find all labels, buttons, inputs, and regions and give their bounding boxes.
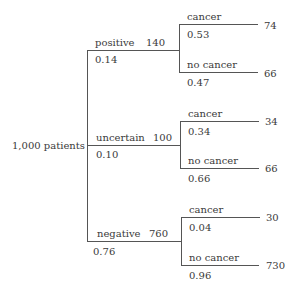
positive-nocancer-prob: 0.47 [187,77,209,88]
negative-count: 760 [149,228,168,239]
uncertain-prob: 0.10 [96,149,118,160]
negative-nocancer-label: no cancer [189,252,239,263]
positive-label: positive [95,37,135,48]
uncertain-count: 100 [153,132,172,143]
positive-nocancer-line [179,72,258,73]
uncertain-nocancer-label: no cancer [188,155,238,166]
uncertain-cancer-line [180,121,259,122]
negative-split-line [181,217,182,266]
negative-branch-line [87,241,181,242]
positive-nocancer-label: no cancer [187,59,237,70]
uncertain-nocancer-line [180,168,259,169]
negative-prob: 0.76 [93,246,115,257]
positive-cancer-prob: 0.53 [187,29,209,40]
uncertain-cancer-label: cancer [188,108,222,119]
positive-nocancer-count: 66 [264,68,277,79]
positive-prob: 0.14 [95,54,117,65]
positive-split-line [179,24,180,73]
uncertain-cancer-prob: 0.34 [188,126,210,137]
negative-nocancer-prob: 0.96 [189,270,211,281]
negative-label: negative [97,228,141,239]
positive-cancer-label: cancer [187,11,221,22]
negative-nocancer-line [181,265,259,266]
root-trunk-line [87,50,88,242]
uncertain-split-line [180,121,181,169]
uncertain-label: uncertain [96,132,145,143]
uncertain-cancer-count: 34 [265,116,278,127]
positive-cancer-count: 74 [264,20,277,31]
uncertain-branch-line [87,145,180,146]
probability-tree-diagram: 1,000 patients positive 140 0.14 cancer … [0,0,300,293]
positive-count: 140 [146,37,165,48]
negative-cancer-count: 30 [266,212,279,223]
positive-cancer-line [179,24,258,25]
negative-cancer-line [181,217,260,218]
uncertain-nocancer-prob: 0.66 [188,173,210,184]
negative-nocancer-count: 730 [266,260,285,271]
positive-branch-line [87,50,179,51]
negative-cancer-prob: 0.04 [189,222,211,233]
uncertain-nocancer-count: 66 [265,163,278,174]
negative-cancer-label: cancer [189,204,223,215]
root-label: 1,000 patients [12,140,85,151]
